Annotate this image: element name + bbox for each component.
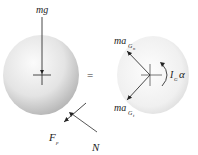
friction-subscript: p bbox=[55, 140, 59, 145]
normal-force-vector bbox=[72, 114, 97, 132]
weight-label: mg bbox=[36, 4, 48, 15]
moment-alpha: α bbox=[179, 68, 185, 80]
normal-accel-label: ma bbox=[114, 35, 126, 46]
left-disc-group bbox=[3, 17, 97, 132]
friction-label: F bbox=[48, 131, 56, 143]
moment-sub: G bbox=[174, 77, 178, 82]
tangent-accel-subsub: t bbox=[133, 113, 135, 118]
tangent-accel-label: ma bbox=[114, 102, 126, 113]
free-body-diagram: mg F p N = ma G n ma G t I G α bbox=[0, 0, 198, 155]
friction-force-vector bbox=[64, 103, 86, 122]
normal-label: N bbox=[91, 141, 100, 153]
equals-sign: = bbox=[87, 69, 93, 81]
